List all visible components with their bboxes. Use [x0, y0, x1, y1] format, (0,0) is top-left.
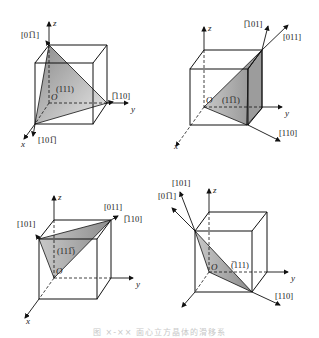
y-axis-label: y — [290, 273, 295, 283]
direction-arrow — [172, 208, 195, 231]
direction-label: [̅110] — [124, 214, 142, 224]
direction-label: [101̅] — [38, 135, 57, 145]
direction-label: [110] — [275, 291, 293, 301]
direction-arrow — [180, 192, 195, 231]
z-axis-label: z — [212, 185, 217, 195]
panel-top-left: z y x O (111) [01̅1] [̅110] [101̅] — [20, 18, 135, 149]
plane-label: (̅111) — [231, 260, 249, 270]
plane-label: (111) — [56, 84, 74, 94]
direction-label: [̅101] — [244, 19, 263, 29]
direction-label: [01̅1] — [158, 191, 176, 201]
y-axis-label: y — [130, 104, 135, 114]
y-axis-label: y — [284, 108, 289, 118]
direction-label: [011] — [283, 32, 301, 42]
x-axis-label: x — [20, 139, 25, 149]
z-axis-label: z — [52, 18, 57, 28]
direction-label: [110] — [279, 128, 297, 138]
direction-label: [̅110] — [112, 91, 130, 101]
x-axis-label: x — [173, 141, 178, 151]
panel-top-right: z y x O (11̅1) [̅101] [011] [110] — [173, 19, 301, 151]
z-axis-label: z — [207, 23, 212, 33]
x-axis-arrow — [182, 292, 195, 307]
figure-caption: 图 ×-×× 面心立方晶体的滑移系 — [0, 326, 319, 337]
direction-label: [01̅1] — [21, 30, 39, 40]
panel-bottom-right: z y O (̅111) [101] [01̅1] [110] — [158, 178, 295, 307]
origin-label: O — [206, 95, 213, 105]
origin-label: O — [211, 262, 218, 272]
direction-label: [101] — [172, 178, 191, 188]
panel-bottom-left: z y x O (111̅) [101] [011] [̅110] — [17, 192, 142, 326]
plane-label: (11̅1) — [222, 95, 240, 105]
z-axis-label: z — [57, 192, 62, 202]
direction-label: [101] — [17, 219, 36, 229]
direction-arrow — [262, 26, 268, 50]
direction-label: [011] — [104, 202, 122, 212]
plane-label: (111̅) — [57, 246, 75, 256]
origin-label: O — [56, 266, 63, 276]
slip-plane — [39, 220, 111, 278]
y-axis-label: y — [135, 279, 140, 289]
direction-arrow — [248, 125, 280, 141]
fcc-slip-systems-diagram: z y x O (111) [01̅1] [̅110] [101̅] z y x… — [0, 0, 319, 338]
direction-arrow — [36, 235, 39, 239]
direction-arrow — [111, 216, 118, 220]
x-axis-label: x — [25, 316, 30, 326]
